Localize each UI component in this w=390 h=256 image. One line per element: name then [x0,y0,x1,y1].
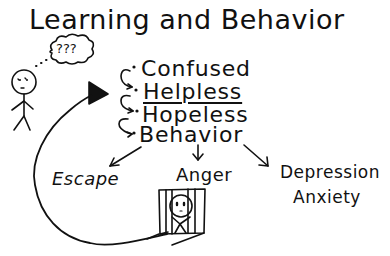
outcome-depression: Depression [280,164,380,181]
thought-bubble-text: ??? [56,42,77,55]
outcome-arrows [110,145,268,166]
bullet-dots [132,65,138,134]
arrowhead-icon [89,82,108,104]
outcome-anger: Anger [176,166,232,184]
sequence-item-confused: Confused [141,58,251,80]
sequence-item-helpless: Helpless [143,81,242,103]
diagram-canvas: Learning and Behavior ??? Confused Helpl… [0,0,390,256]
outcome-escape: Escape [52,170,119,188]
diagram-title: Learning and Behavior [29,6,345,33]
outcome-anxiety: Anxiety [293,189,361,206]
sequence-item-behavior: Behavior [139,124,243,146]
stick-figure-icon [12,70,36,130]
sequence-arrows [119,70,133,137]
thought-dots-icon [36,60,47,66]
